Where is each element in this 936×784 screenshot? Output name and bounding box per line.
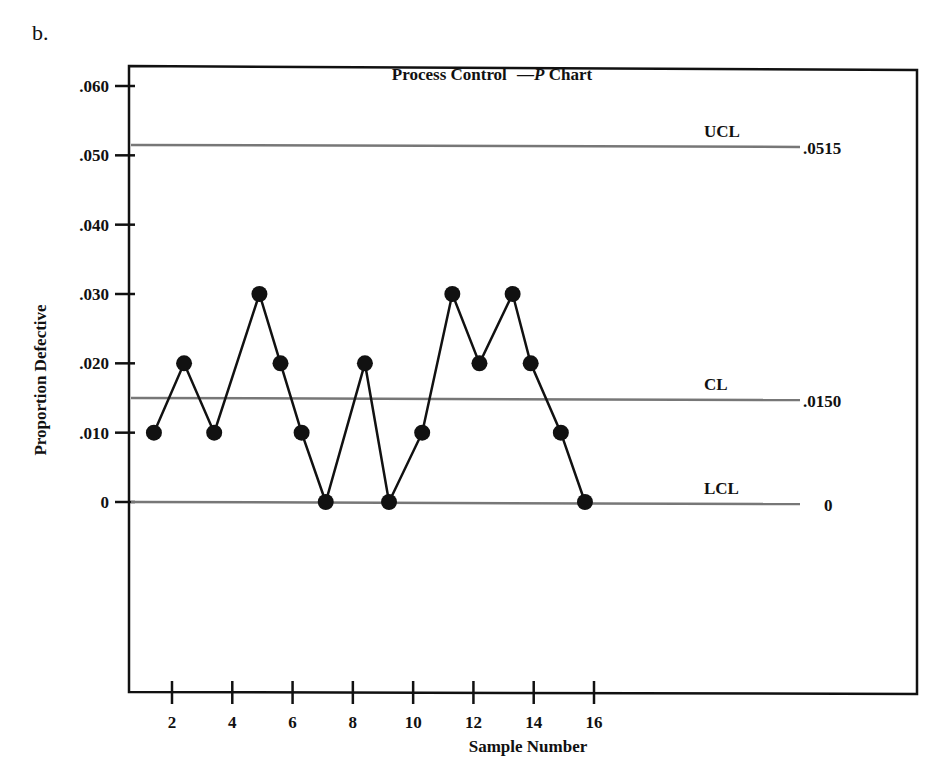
data-point — [523, 355, 539, 371]
control-line-label-lcl: LCL — [704, 479, 739, 498]
x-tick-label: 10 — [405, 713, 422, 732]
p-chart-figure: b. Process Control —P Chart 0.010.020.03… — [0, 0, 936, 784]
data-point — [318, 494, 334, 510]
x-tick-label: 12 — [465, 713, 482, 732]
data-point — [553, 425, 569, 441]
y-tick-label: .030 — [79, 285, 109, 304]
data-point — [294, 425, 310, 441]
p-chart: b. Process Control —P Chart 0.010.020.03… — [0, 0, 936, 784]
control-line-label-ucl: UCL — [704, 122, 740, 141]
y-tick-label: .010 — [79, 424, 109, 443]
y-axis: 0.010.020.030.040.050.060 — [79, 77, 135, 512]
data-point — [146, 425, 162, 441]
data-point — [357, 355, 373, 371]
y-tick-label: .040 — [79, 216, 109, 235]
control-line-lcl — [131, 502, 800, 504]
control-line-label-cl: CL — [704, 375, 728, 394]
data-point — [381, 494, 397, 510]
plot-frame — [129, 66, 917, 694]
control-line-value-cl: .0150 — [803, 392, 841, 411]
y-tick-label: .050 — [79, 146, 109, 165]
y-tick-label: .020 — [79, 354, 109, 373]
x-tick-label: 4 — [228, 713, 237, 732]
data-point — [206, 425, 222, 441]
x-axis-title: Sample Number — [469, 737, 588, 756]
x-tick-label: 16 — [586, 713, 603, 732]
x-axis: 246810121416 — [168, 681, 603, 732]
data-point — [251, 286, 267, 302]
x-tick-label: 8 — [349, 713, 358, 732]
data-point — [471, 355, 487, 371]
part-label: b. — [32, 20, 49, 45]
data-point — [444, 286, 460, 302]
y-axis-title: Proportion Defective — [31, 304, 50, 456]
data-point — [176, 355, 192, 371]
data-point — [577, 494, 593, 510]
x-tick-label: 14 — [525, 713, 543, 732]
control-lines: UCL.0515CL.0150LCL0 — [131, 122, 841, 515]
control-line-value-ucl: .0515 — [803, 139, 841, 158]
data-point — [505, 286, 521, 302]
x-tick-label: 2 — [168, 713, 177, 732]
y-tick-label: 0 — [101, 493, 110, 512]
control-line-ucl — [131, 145, 800, 147]
data-point — [273, 355, 289, 371]
control-line-value-lcl: 0 — [824, 496, 833, 515]
y-tick-label: .060 — [79, 77, 109, 96]
x-tick-label: 6 — [288, 713, 297, 732]
control-line-cl — [131, 398, 800, 400]
data-point — [414, 425, 430, 441]
